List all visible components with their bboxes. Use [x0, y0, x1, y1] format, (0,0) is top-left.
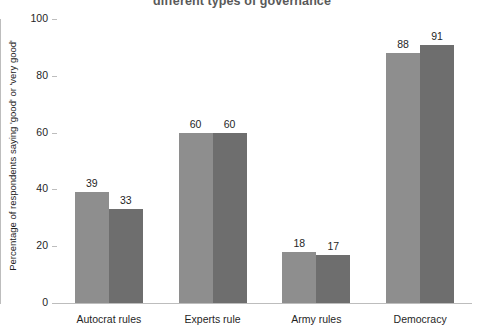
y-axis-tick-mark [52, 19, 57, 20]
x-axis-category-label: Army rules [256, 313, 376, 325]
bar-value-label: 91 [420, 30, 454, 43]
y-axis-tick-label: 80 [36, 69, 48, 82]
y-axis-tick-label: 40 [36, 182, 48, 195]
y-axis-tick: 0 [0, 303, 57, 304]
chart-title: different types of governance [0, 0, 484, 8]
bar [282, 252, 316, 303]
bar [316, 255, 350, 303]
y-axis-tick-mark [52, 76, 57, 77]
x-axis-category-label: Autocrat rules [49, 313, 169, 325]
x-axis-category-label: Experts rule [153, 313, 273, 325]
y-axis-tick: 80 [0, 76, 57, 77]
x-axis-category-label: Democracy [360, 313, 480, 325]
bar [179, 133, 213, 303]
y-axis-line [0, 19, 1, 304]
y-axis-tick-label: 100 [30, 12, 48, 25]
bar [386, 53, 420, 303]
bar-value-label: 60 [179, 118, 213, 131]
bar-value-label: 33 [109, 194, 143, 207]
x-axis-line [57, 303, 472, 304]
bar-value-label: 18 [282, 237, 316, 250]
y-axis-title: Percentage of respondents saying 'good' … [7, 6, 18, 306]
y-axis-tick-mark [52, 303, 57, 304]
bar [75, 192, 109, 303]
y-axis-tick-mark [52, 246, 57, 247]
bar-chart: different types of governance Percentage… [0, 0, 484, 333]
y-axis-tick: 100 [0, 19, 57, 20]
bar [420, 45, 454, 303]
bar [213, 133, 247, 303]
y-axis-tick: 60 [0, 133, 57, 134]
bar-value-label: 39 [75, 177, 109, 190]
y-axis-tick-label: 20 [36, 239, 48, 252]
bar [109, 209, 143, 303]
bar-value-label: 88 [386, 38, 420, 51]
y-axis-tick-mark [52, 189, 57, 190]
y-axis-tick-mark [52, 133, 57, 134]
y-axis-tick: 40 [0, 189, 57, 190]
y-axis-tick-label: 0 [42, 296, 48, 309]
y-axis-tick: 20 [0, 246, 57, 247]
bar-value-label: 60 [213, 118, 247, 131]
bar-value-label: 17 [316, 240, 350, 253]
y-axis-tick-label: 60 [36, 126, 48, 139]
